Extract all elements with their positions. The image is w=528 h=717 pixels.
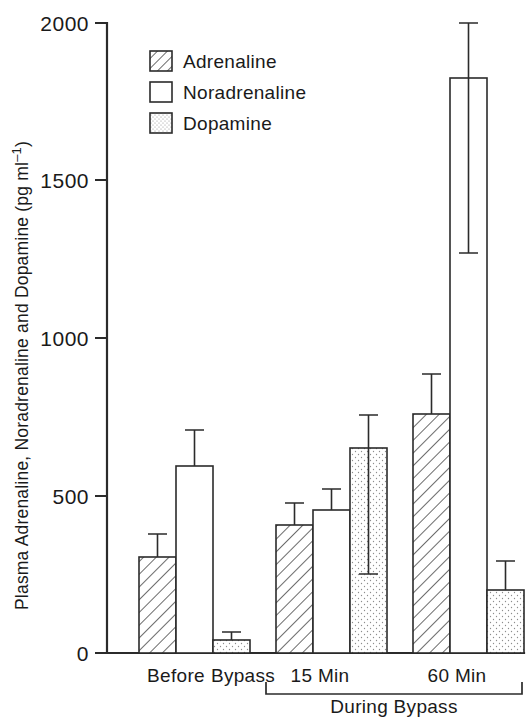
bar-dopamine-before-bypass [213,640,250,653]
during-bypass-bracket: During Bypass [266,682,522,717]
bar-adrenaline-15-min [276,525,313,653]
bar-dopamine-60-min [487,590,524,653]
hatch-swatch [150,51,172,71]
bar-group-15-min: 15 Min [276,415,387,686]
x-label-before: Before [147,665,205,686]
bar-adrenaline-before-bypass [139,557,176,653]
bar-noradrenaline-before-bypass [176,466,213,653]
y-axis-title: Plasma Adrenaline, Noradrenaline and Dop… [9,141,32,610]
bracket-label-during-bypass: During Bypass [330,696,457,717]
errorbar-adrenaline-15-min [285,503,304,525]
svg-text:Plasma Adrenaline, Noradrenali: Plasma Adrenaline, Noradrenaline and Dop… [9,141,32,610]
y-axis: 2000 1500 1000 500 0 [40,12,107,665]
y-tick-label-500: 500 [52,485,89,508]
bar-adrenaline-60-min [413,414,450,653]
y-axis-title-superscript: –1 [9,147,24,162]
legend-label-dopamine: Dopamine [183,113,272,134]
legend-label-adrenaline: Adrenaline [183,51,277,72]
open-swatch [150,82,172,102]
errorbar-noradrenaline-before-bypass [185,430,204,466]
y-tick-label-2000: 2000 [40,12,89,35]
errorbar-dopamine-60-min [496,561,515,590]
bar-group-60-min: 60 Min [413,23,524,686]
errorbar-adrenaline-before-bypass [148,534,167,557]
bar-group-before-bypass: Before Bypass [139,430,275,686]
x-label-60-min: 60 Min [428,665,487,686]
y-axis-title-tail: ) [12,141,32,147]
x-label-15-min: 15 Min [291,665,350,686]
bar-noradrenaline-15-min [313,510,350,653]
errorbar-dopamine-before-bypass [222,632,241,640]
y-tick-label-1500: 1500 [40,169,89,192]
y-tick-label-1000: 1000 [40,327,89,350]
errorbar-adrenaline-60-min [422,374,441,414]
bar-chart-figure: 2000 1500 1000 500 0 Plasma Adrenaline, … [0,0,528,717]
legend-label-noradrenaline: Noradrenaline [183,82,306,103]
y-tick-label-0: 0 [77,642,89,665]
errorbar-noradrenaline-15-min [322,489,341,510]
dotted-swatch [150,113,172,133]
chart-legend: Adrenaline Noradrenaline Dopamine [150,51,306,134]
y-axis-title-main: Plasma Adrenaline, Noradrenaline and Dop… [12,162,32,610]
chart-canvas: 2000 1500 1000 500 0 Plasma Adrenaline, … [0,0,528,717]
